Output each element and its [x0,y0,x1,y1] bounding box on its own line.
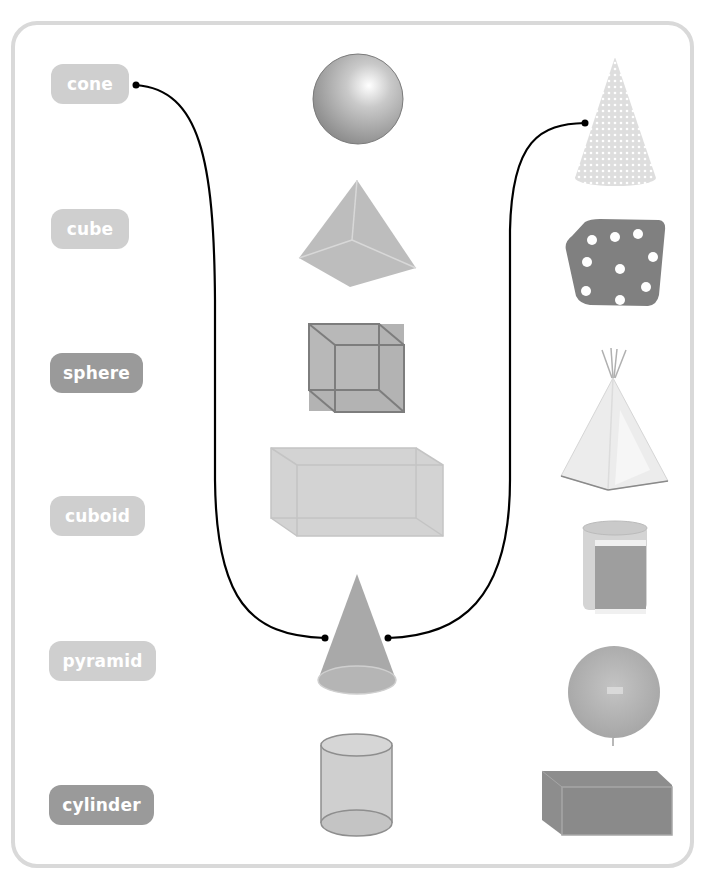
connection-dot [582,120,589,127]
connection-dot [385,635,392,642]
right-box-cuboid[interactable] [542,771,672,835]
middle-cone[interactable] [318,574,396,694]
middle-sphere[interactable] [313,54,403,144]
right-dice-cube[interactable] [566,219,666,306]
shapes-layer [0,0,710,877]
right-rolled-mat-cylinder[interactable] [583,521,647,614]
connection-dot [322,635,329,642]
right-teepee-tent-pyramid[interactable] [561,348,668,490]
connection-dot [133,82,140,89]
right-balloon-sphere[interactable] [568,646,660,746]
middle-cube[interactable] [309,324,404,412]
line-cone-label-to-cone [136,85,325,638]
middle-pyramid[interactable] [299,180,416,287]
middle-cuboid[interactable] [271,448,443,536]
middle-cylinder[interactable] [321,734,392,836]
line-cone-to-party-hat [388,123,585,638]
